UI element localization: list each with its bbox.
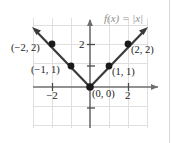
x-tick-label-pos2: 2 xyxy=(125,90,131,101)
y-tick-label-2: 2 xyxy=(79,39,85,50)
point-label-neg2-2: (−2, 2) xyxy=(11,43,40,54)
x-tick-label-neg2: −2 xyxy=(46,90,58,101)
absolute-value-function-figure: f(x) = |x| (−2, 2) (−1, 1) (0, 0) (1, 1)… xyxy=(0,0,171,143)
point-label-0-0: (0, 0) xyxy=(92,89,115,100)
function-label: f(x) = |x| xyxy=(104,13,143,24)
point-label-1-1: (1, 1) xyxy=(112,67,135,78)
right-border-line xyxy=(169,0,170,143)
y-axis-arrowhead xyxy=(87,19,93,26)
x-axis-arrowhead xyxy=(151,84,158,90)
point-neg2-2 xyxy=(49,41,56,48)
point-neg1-1 xyxy=(68,63,75,70)
point-label-neg1-1: (−1, 1) xyxy=(31,65,60,76)
graph-canvas xyxy=(0,0,171,143)
point-label-2-2: (2, 2) xyxy=(131,45,154,56)
